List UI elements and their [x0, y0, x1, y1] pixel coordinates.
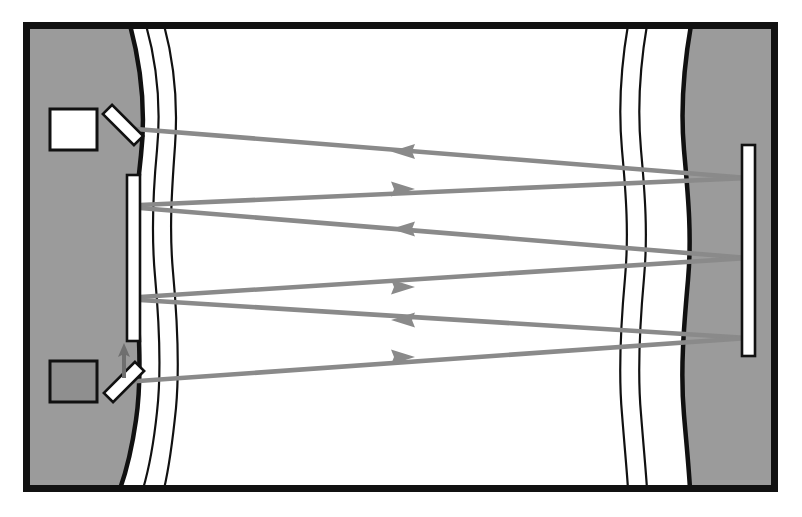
detector-box[interactable] [50, 361, 97, 402]
source-box[interactable] [50, 109, 97, 150]
left-vertical-mirror[interactable] [127, 175, 140, 341]
left-medium-block [26, 25, 143, 489]
right-vertical-mirror[interactable] [742, 145, 755, 356]
optical-beam-path-diagram [0, 0, 802, 517]
figure-canvas [0, 0, 802, 517]
